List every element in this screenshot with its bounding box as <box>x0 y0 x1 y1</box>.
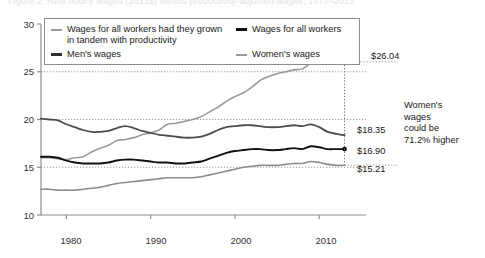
y-tick-label: 25 <box>8 67 34 77</box>
legend-item-mens-wages[interactable]: Men's wages <box>51 49 236 60</box>
legend-swatch-all-workers-wages <box>236 28 247 31</box>
legend-swatch-womens-wages <box>236 54 247 56</box>
y-tick-label: 10 <box>8 211 34 221</box>
endpoint-label-productivity-wages: $26.04 <box>371 52 399 61</box>
legend-label-womens-wages: Women's wages <box>252 49 320 60</box>
legend-swatch-mens-wages <box>51 53 62 56</box>
legend-item-womens-wages[interactable]: Women's wages <box>236 49 353 60</box>
x-tick-label: 1990 <box>136 236 176 246</box>
legend-column-left: Wages for all workers had they grown in … <box>51 24 236 60</box>
x-tick-label: 1980 <box>51 236 91 246</box>
legend-item-all-workers-wages[interactable]: Wages for all workers <box>236 24 353 35</box>
annotation-womens-wages-gap: Women's wages could be 71.2% higher <box>404 100 482 146</box>
y-tick-label: 15 <box>8 163 34 173</box>
endpoint-label-all-workers-wages: $16.90 <box>357 147 385 156</box>
series-line-1 <box>41 119 345 138</box>
legend-column-right: Wages for all workers Women's wages <box>236 24 353 60</box>
annotation-line: Women's <box>404 100 482 112</box>
chart-container: Figure 2. Real hourly wages (2013$) vers… <box>0 0 485 258</box>
annotation-line: 71.2% higher <box>404 135 482 147</box>
y-tick-label: 20 <box>8 115 34 125</box>
legend-swatch-productivity-wages <box>51 29 62 31</box>
x-tick-label: 2000 <box>221 236 261 246</box>
series-line-0 <box>41 59 345 159</box>
x-tick-label: 2010 <box>306 236 346 246</box>
annotation-line: wages <box>404 112 482 124</box>
legend-label-productivity-wages: Wages for all workers had they grown in … <box>67 24 222 46</box>
y-axis-tick-labels: 30 25 20 15 10 <box>8 0 34 258</box>
series-line-3 <box>41 162 345 191</box>
legend-label-all-workers-wages: Wages for all workers <box>252 24 341 35</box>
chart-legend: Wages for all workers had they grown in … <box>44 18 360 65</box>
legend-label-mens-wages: Men's wages <box>67 49 121 60</box>
y-tick-label: 30 <box>8 20 34 30</box>
annotation-line: could be <box>404 123 482 135</box>
legend-item-productivity-wages[interactable]: Wages for all workers had they grown in … <box>51 24 236 46</box>
endpoint-label-womens-wages: $15.21 <box>357 165 385 174</box>
endpoint-label-mens-wages: $18.35 <box>357 126 385 135</box>
